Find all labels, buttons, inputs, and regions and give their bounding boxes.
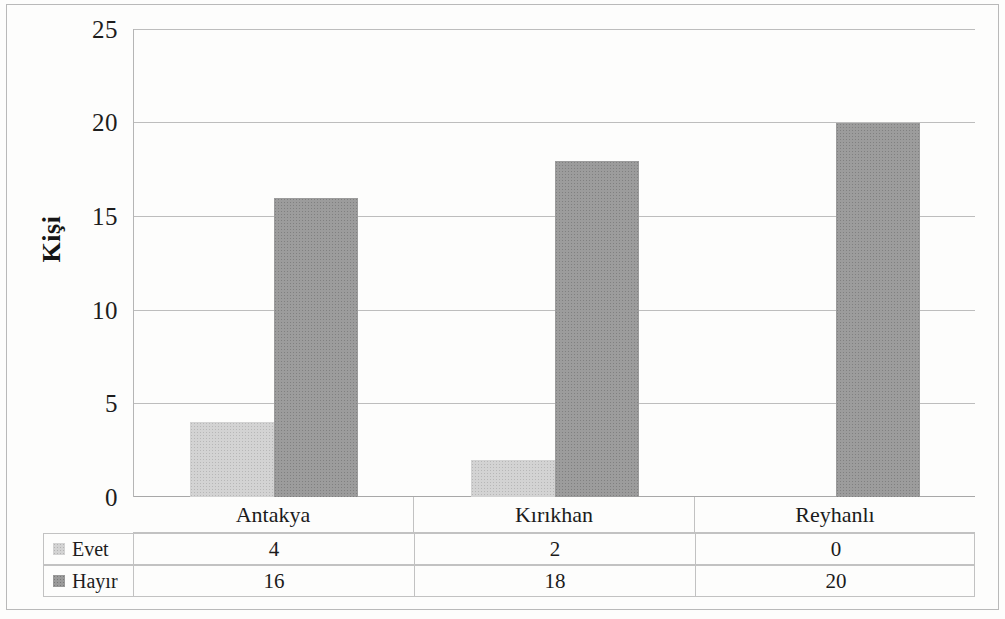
bar-reyhanlı-hayır <box>836 123 920 497</box>
legend-entry-evet: Evet <box>44 534 134 564</box>
y-tick-label: 10 <box>8 298 118 323</box>
y-tick-label: 20 <box>8 110 118 135</box>
gridline-25 <box>134 29 975 30</box>
category-header-cell: Reyhanlı <box>694 497 975 532</box>
table-cell: 18 <box>414 566 695 596</box>
legend-swatch-icon <box>53 543 65 555</box>
legend-swatch-icon <box>53 575 65 587</box>
table-cell: 20 <box>695 566 976 596</box>
table-row: Evet 4 2 0 <box>43 533 975 565</box>
legend-label: Hayır <box>72 570 118 593</box>
y-tick-label: 5 <box>8 391 118 416</box>
table-cell: 2 <box>414 534 695 564</box>
table-row: Hayır 16 18 20 <box>43 565 975 597</box>
y-tick-label: 15 <box>8 204 118 229</box>
table-row-categories: Antakya Kırıkhan Reyhanlı <box>133 497 975 533</box>
category-header-cell: Kırıkhan <box>413 497 694 532</box>
legend-label: Evet <box>72 538 109 561</box>
data-table: Antakya Kırıkhan Reyhanlı Evet 4 2 0 Hay… <box>43 497 975 597</box>
table-cell: 4 <box>134 534 414 564</box>
bar-kırıkhan-hayır <box>555 161 639 497</box>
bar-kırıkhan-evet <box>471 460 555 497</box>
bar-antakya-evet <box>190 422 274 497</box>
table-cell: 0 <box>695 534 976 564</box>
legend-entry-hayir: Hayır <box>44 566 134 596</box>
table-cell: 16 <box>134 566 414 596</box>
plot-area <box>133 29 975 497</box>
category-header-cell: Antakya <box>133 497 413 532</box>
chart-figure: Kişi 25 20 15 10 5 0 Antakya Kırıkhan Re… <box>0 0 1005 619</box>
y-tick-label: 25 <box>8 17 118 42</box>
bar-antakya-hayır <box>274 198 358 497</box>
